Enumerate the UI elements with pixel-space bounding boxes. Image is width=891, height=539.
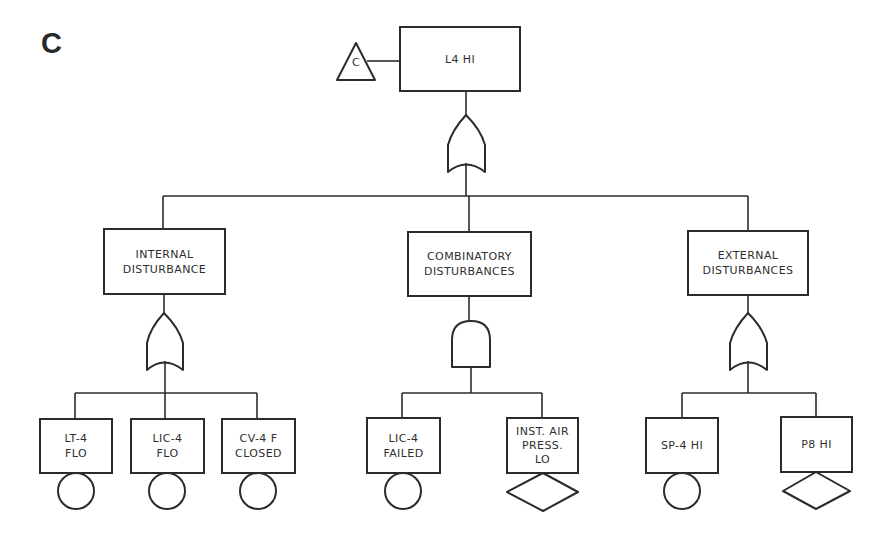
node-text: L4 HI	[445, 52, 475, 67]
node-text: INST. AIR	[516, 425, 569, 439]
node-text: CLOSED	[235, 446, 282, 461]
basic-event-cv4f-closed: CV-4 F CLOSED	[221, 418, 296, 474]
basic-event-sp4-hi: SP-4 HI	[645, 417, 719, 474]
and-gate-icon	[452, 321, 490, 367]
undeveloped-event-diamond-icon	[783, 472, 850, 509]
transfer-symbol-label: C	[352, 56, 360, 69]
node-text: SP-4 HI	[661, 438, 703, 453]
basic-event-circle-icon	[149, 473, 185, 509]
fault-tree-diagram: C C L4 HI INTERNAL DISTURBANCE COMBINATO…	[0, 0, 891, 539]
basic-event-inst-air-press-lo: INST. AIR PRESS. LO	[506, 417, 579, 474]
basic-event-lt4-flo: LT-4 FLO	[39, 418, 113, 474]
top-event-box: L4 HI	[399, 26, 521, 92]
node-text: LO	[535, 453, 550, 467]
node-text: FLO	[65, 446, 87, 461]
basic-event-circle-icon	[664, 473, 700, 509]
node-text: DISTURBANCE	[123, 262, 206, 277]
basic-event-p8-hi: P8 HI	[780, 416, 853, 473]
node-text: DISTURBANCES	[424, 264, 515, 279]
intermediate-event-external-disturbances: EXTERNAL DISTURBANCES	[687, 230, 809, 296]
node-text: FLO	[157, 446, 179, 461]
node-text: P8 HI	[801, 437, 832, 452]
node-text: COMBINATORY	[427, 249, 512, 264]
basic-event-circle-icon	[240, 473, 276, 509]
node-text: INTERNAL	[136, 247, 194, 262]
intermediate-event-internal-disturbance: INTERNAL DISTURBANCE	[103, 228, 226, 295]
intermediate-event-combinatory-disturbances: COMBINATORY DISTURBANCES	[407, 231, 532, 297]
undeveloped-event-diamond-icon	[507, 473, 578, 511]
basic-event-lic4-flo: LIC-4 FLO	[130, 418, 205, 474]
node-text: EXTERNAL	[718, 248, 779, 263]
node-text: DISTURBANCES	[703, 263, 794, 278]
node-text: LIC-4	[388, 431, 418, 446]
node-text: CV-4 F	[240, 431, 278, 446]
basic-event-circle-icon	[385, 473, 421, 509]
node-text: PRESS.	[522, 439, 563, 453]
basic-event-lic4-failed: LIC-4 FAILED	[366, 417, 441, 474]
node-text: FAILED	[383, 446, 423, 461]
basic-event-circle-icon	[58, 473, 94, 509]
node-text: LIC-4	[152, 431, 182, 446]
panel-label: C	[41, 27, 62, 60]
node-text: LT-4	[65, 431, 88, 446]
